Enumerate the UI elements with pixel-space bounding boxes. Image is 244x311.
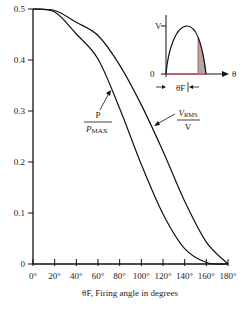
x-tick-label: 60° [92, 271, 105, 281]
y-tick-label: 0.4 [14, 55, 26, 65]
arrow [157, 114, 175, 124]
svg-text:θF: θF [176, 83, 185, 93]
x-tick-label: 180° [219, 271, 237, 281]
y-tick-label: 0 [21, 259, 26, 269]
y-tick-label: 0.5 [14, 4, 26, 14]
y-tick-label: 0.1 [14, 208, 25, 218]
x-tick-label: 140° [176, 271, 194, 281]
p-over-pmax-label: P PMAX [84, 90, 112, 135]
svg-text:0: 0 [150, 69, 155, 79]
chart: 00.10.20.30.40.5 0°20°40°60°80°100°120°1… [0, 0, 244, 311]
x-tick-label: 120° [154, 271, 172, 281]
y-tick-label: 0.2 [14, 157, 25, 167]
svg-text:P: P [95, 110, 100, 120]
x-tick-label: 80° [113, 271, 126, 281]
y-ticks: 00.10.20.30.40.5 [14, 4, 33, 269]
svg-text:V: V [185, 122, 192, 132]
vrms-over-v-label: VRMS V [154, 108, 200, 132]
svg-text:V: V [155, 21, 162, 31]
x-tick-label: 40° [70, 271, 83, 281]
arrow [100, 93, 109, 110]
x-tick-label: 20° [48, 271, 61, 281]
x-tick-label: 160° [198, 271, 216, 281]
x-tick-label: 0° [29, 271, 38, 281]
inset-waveform: V 0 θ θF [150, 15, 236, 93]
svg-text:VRMS: VRMS [178, 108, 198, 118]
y-tick-label: 0.3 [14, 106, 26, 116]
x-axis-title: θF, Firing angle in degrees [82, 288, 178, 298]
svg-text:θ: θ [232, 69, 236, 79]
pmax-text: PMAX [85, 124, 108, 135]
x-tick-label: 100° [133, 271, 151, 281]
